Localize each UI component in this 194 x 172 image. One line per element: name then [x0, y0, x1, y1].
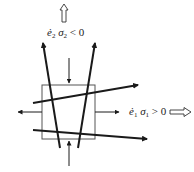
- relation: < 0: [70, 26, 84, 38]
- stress-diagram: [0, 0, 194, 172]
- hollow-up-arrow-icon: [60, 4, 68, 22]
- hollow-right-arrow-icon: [170, 108, 191, 117]
- relation: > 0: [152, 105, 166, 117]
- right-label: ė1 σ1 > 0: [129, 105, 166, 119]
- lower-thick-arrow: [33, 130, 147, 139]
- top-label: ė2 σ2 < 0: [47, 26, 84, 40]
